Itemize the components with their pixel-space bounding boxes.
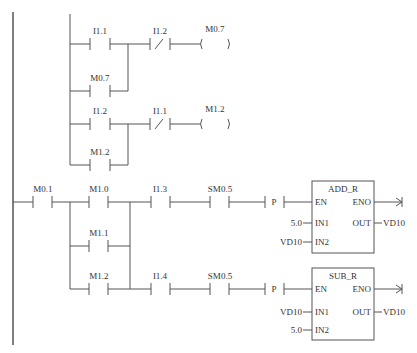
positive-edge-label: P (271, 284, 276, 294)
contact-label: M0.1 (33, 184, 52, 194)
contact-label: M1.0 (89, 184, 108, 194)
contact-label: SM0.5 (208, 184, 232, 194)
pin-out: OUT (353, 218, 372, 228)
contact-label: SM0.5 (208, 271, 232, 281)
contact-label: I1.1 (153, 106, 167, 116)
out-value: VD10 (383, 307, 405, 317)
pin-out: OUT (353, 307, 372, 317)
pin-in1: IN1 (315, 307, 329, 317)
pin-in1: IN1 (315, 218, 329, 228)
pin-in2: IN2 (315, 325, 329, 335)
ladder-diagram (0, 0, 417, 353)
in2-value: 5.0 (291, 325, 302, 335)
network-2 (70, 118, 230, 171)
block-title: SUB_R (329, 271, 357, 281)
contact-label: M1.2 (90, 147, 109, 157)
contact-label: I1.1 (93, 26, 107, 36)
contact-label: I1.4 (153, 271, 167, 281)
pin-in2: IN2 (315, 237, 329, 247)
contact-label: M0.7 (90, 73, 109, 83)
network-3 (13, 181, 402, 340)
out-value: VD10 (383, 218, 405, 228)
in1-value: VD10 (280, 307, 302, 317)
pin-en: EN (315, 284, 327, 294)
positive-edge-label: P (271, 197, 276, 207)
contact-label: I1.3 (153, 184, 167, 194)
in2-value: VD10 (280, 237, 302, 247)
pin-eno: ENO (353, 197, 372, 207)
pin-eno: ENO (353, 284, 372, 294)
network-1 (70, 38, 230, 97)
contact-label: I1.2 (153, 26, 167, 36)
block-title: ADD_R (328, 184, 358, 194)
contact-label: M1.2 (89, 271, 108, 281)
contact-label: M1.1 (89, 228, 108, 238)
in1-value: 5.0 (291, 218, 302, 228)
contact-label: I1.2 (93, 106, 107, 116)
pin-en: EN (315, 197, 327, 207)
coil-label: M1.2 (205, 104, 224, 114)
coil-label: M0.7 (205, 24, 224, 34)
